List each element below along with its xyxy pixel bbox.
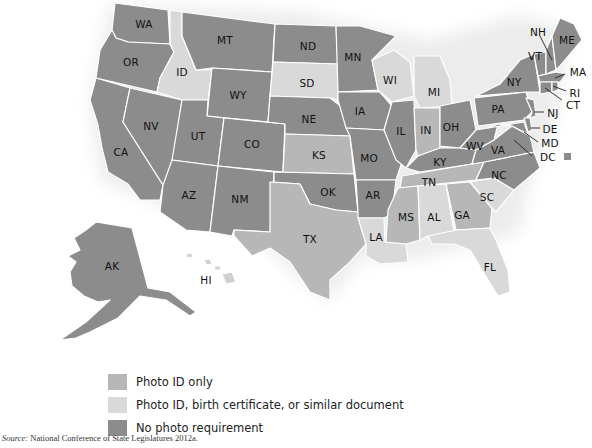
svg-text:OH: OH [443, 121, 460, 133]
svg-text:WY: WY [229, 89, 247, 101]
svg-text:ME: ME [559, 34, 575, 46]
svg-text:CO: CO [244, 138, 260, 150]
svg-text:ND: ND [300, 40, 316, 52]
svg-text:ID: ID [176, 66, 188, 78]
svg-text:PA: PA [491, 103, 505, 115]
svg-text:SC: SC [480, 191, 494, 203]
legend-label: Photo ID only [136, 375, 213, 389]
legend: Photo ID only Photo ID, birth certificat… [108, 370, 404, 439]
svg-text:SD: SD [299, 77, 314, 89]
legend-swatch-photo-id-birth-cert [108, 397, 127, 413]
svg-text:MN: MN [344, 51, 361, 63]
svg-text:MT: MT [217, 34, 233, 46]
svg-text:NE: NE [302, 113, 317, 125]
svg-text:UT: UT [191, 130, 206, 142]
legend-label: Photo ID, birth certificate, or similar … [136, 398, 404, 412]
svg-text:MI: MI [428, 86, 441, 98]
svg-text:NJ: NJ [547, 107, 558, 119]
state-ak[interactable] [60, 222, 196, 340]
svg-text:AK: AK [105, 260, 120, 272]
svg-text:CA: CA [114, 146, 130, 158]
svg-text:NH: NH [530, 26, 546, 38]
svg-text:NV: NV [143, 120, 159, 132]
svg-text:NM: NM [231, 193, 248, 205]
legend-swatch-photo-id-only [108, 374, 127, 390]
svg-text:AR: AR [366, 189, 381, 201]
svg-text:LA: LA [369, 231, 383, 243]
svg-text:AZ: AZ [182, 189, 197, 201]
svg-text:KY: KY [433, 156, 447, 168]
svg-text:DC: DC [540, 151, 556, 163]
svg-text:WI: WI [383, 74, 397, 86]
source-prefix: Source: [2, 433, 28, 443]
svg-text:DE: DE [542, 123, 557, 135]
us-voter-id-map: WA OR CA NV ID MT WY UT AZ CO NM ND SD N… [0, 0, 592, 360]
source-note: Source: National Conference of State Leg… [2, 433, 198, 443]
legend-item-photo-id-birth-cert: Photo ID, birth certificate, or similar … [108, 393, 404, 416]
svg-text:RI: RI [570, 87, 581, 99]
svg-text:MA: MA [570, 66, 587, 78]
svg-text:WA: WA [135, 18, 153, 30]
svg-text:IL: IL [396, 125, 405, 137]
source-text: National Conference of State Legislature… [28, 433, 198, 443]
svg-text:TN: TN [421, 176, 437, 188]
svg-text:OR: OR [123, 56, 139, 68]
svg-text:MO: MO [360, 152, 378, 164]
svg-text:MD: MD [541, 137, 559, 149]
svg-text:WV: WV [466, 140, 485, 152]
svg-text:IN: IN [420, 124, 431, 136]
svg-text:NY: NY [507, 76, 522, 88]
svg-text:OK: OK [320, 186, 336, 198]
dc-swatch [564, 153, 571, 160]
svg-text:AL: AL [427, 211, 440, 223]
svg-text:TX: TX [302, 233, 317, 245]
svg-text:VA: VA [491, 144, 506, 156]
svg-text:CT: CT [566, 99, 581, 111]
svg-text:MS: MS [398, 211, 414, 223]
svg-text:NC: NC [491, 169, 507, 181]
svg-text:VT: VT [528, 50, 542, 62]
svg-text:FL: FL [484, 261, 496, 273]
svg-text:GA: GA [454, 209, 470, 221]
legend-item-photo-id-only: Photo ID only [108, 370, 404, 393]
svg-text:IA: IA [355, 105, 366, 117]
svg-text:KS: KS [312, 149, 326, 161]
svg-text:HI: HI [200, 274, 211, 286]
